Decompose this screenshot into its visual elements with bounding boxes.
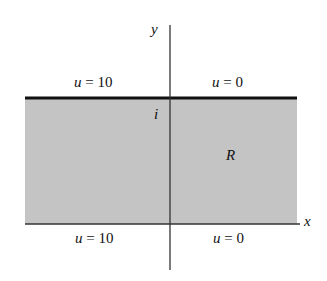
top-left-boundary-label: u = 10 <box>74 75 112 90</box>
x-axis-label: x <box>304 214 311 229</box>
region-r <box>25 99 297 224</box>
diagram-canvas <box>0 0 327 281</box>
y-axis-label: y <box>151 22 158 37</box>
bottom-left-boundary-label: u = 10 <box>75 231 113 246</box>
region-label: R <box>226 148 235 163</box>
point-i-label: i <box>154 107 158 122</box>
bottom-right-boundary-label: u = 0 <box>213 231 244 246</box>
top-right-boundary-label: u = 0 <box>212 75 243 90</box>
